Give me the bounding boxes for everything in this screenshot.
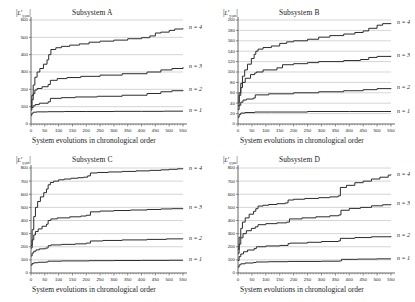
y-tick-label: 100 [212,257,235,262]
panel-subsystem-a: |Lrγ;ρn| Subsystem A System evolutions i… [0,0,207,151]
y-tick-label: 100 [5,104,28,109]
y-tick-label: 60 [212,90,235,95]
y-tick-label: 700 [5,179,28,184]
series-label-n2: n = 2 [189,235,202,241]
series-label-n1: n = 1 [397,108,410,114]
y-tick-label: 200 [212,17,235,22]
panel-subsystem-b: |Lrγ;ρn| Subsystem B System evolutions i… [207,0,415,151]
y-tick-label: 300 [5,69,28,74]
figure-grid: |Lrγ;ρn| Subsystem A System evolutions i… [0,0,415,302]
series-label-n1: n = 1 [397,255,410,261]
y-tick-label: 180 [212,28,235,33]
y-tick-label: 160 [212,38,235,43]
series-label-n4: n = 4 [189,165,202,171]
y-tick-label: 20 [212,111,235,116]
x-tick-label: 550 [383,128,399,133]
series-label-n4: n = 4 [397,19,410,25]
y-tick-label: 600 [5,192,28,197]
y-tick-label: 140 [212,49,235,54]
series-label-n3: n = 3 [189,204,202,210]
y-tick-label: 80 [212,80,235,85]
y-tick-label: 0 [5,270,28,275]
x-axis-caption-c: System evolutions in chronological order [32,285,156,294]
x-axis-caption-d: System evolutions in chronological order [240,285,364,294]
series-label-n1: n = 1 [189,107,202,113]
series-label-n2: n = 2 [189,86,202,92]
x-tick-label: 550 [175,277,191,282]
series-label-n3: n = 3 [189,63,202,69]
y-tick-label: 800 [212,165,235,170]
y-tick-label: 0 [212,121,235,126]
panel-subsystem-d: |Lrγ;ρn| Subsystem D System evolutions i… [207,151,415,302]
y-tick-label: 500 [5,205,28,210]
y-tick-label: 400 [5,52,28,57]
y-tick-label: 500 [212,205,235,210]
x-tick-label: 550 [383,277,399,282]
series-label-n4: n = 4 [397,171,410,177]
y-tick-label: 400 [212,218,235,223]
series-label-n3: n = 3 [397,52,410,58]
y-tick-label: 40 [212,101,235,106]
y-tick-label: 400 [5,218,28,223]
panel-subsystem-c: |Lrγ;ρn| Subsystem C System evolutions i… [0,151,207,302]
y-tick-label: 200 [5,87,28,92]
y-tick-label: 200 [5,244,28,249]
y-tick-label: 200 [212,244,235,249]
y-tick-label: 500 [5,35,28,40]
y-tick-label: 0 [212,270,235,275]
y-tick-label: 800 [5,165,28,170]
y-tick-label: 120 [212,59,235,64]
y-tick-label: 600 [212,192,235,197]
y-tick-label: 100 [5,257,28,262]
x-tick-label: 550 [175,128,191,133]
y-tick-label: 300 [212,231,235,236]
x-axis-caption-b: System evolutions in chronological order [240,136,364,145]
y-tick-label: 700 [212,179,235,184]
series-label-n2: n = 2 [397,84,410,90]
y-tick-label: 300 [5,231,28,236]
series-label-n1: n = 1 [189,256,202,262]
series-label-n2: n = 2 [397,232,410,238]
series-label-n3: n = 3 [397,200,410,206]
series-label-n4: n = 4 [189,24,202,30]
y-tick-label: 0 [5,121,28,126]
y-tick-label: 100 [212,69,235,74]
x-axis-caption-a: System evolutions in chronological order [32,136,156,145]
y-tick-label: 600 [5,17,28,22]
